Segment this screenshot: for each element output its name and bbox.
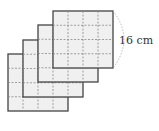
- dimension-label: 16 cm: [119, 34, 153, 47]
- square-sheet-1: [53, 11, 113, 68]
- stacked-squares-diagram: [0, 0, 159, 131]
